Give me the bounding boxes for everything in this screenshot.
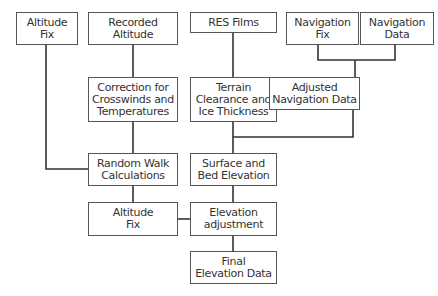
node-random-walk: Random Walk Calculations [88, 153, 178, 186]
node-navigation-fix: Navigation Fix [286, 12, 359, 45]
node-altitude-fix-mid: Altitude Fix [88, 202, 178, 236]
connector-nav-merge [318, 44, 395, 60]
node-surface-bed-elevation: Surface and Bed Elevation [190, 153, 277, 186]
node-terrain-clearance: Terrain Clearance and Ice Thickness [190, 77, 277, 122]
connector-altitude-fix-to-random-walk [46, 44, 88, 169]
node-elevation-adjustment: Elevation adjustment [190, 202, 277, 236]
node-navigation-data: Navigation Data [360, 12, 434, 45]
node-res-films: RES Films [190, 12, 277, 33]
node-final-elevation-data: Final Elevation Data [190, 251, 277, 284]
node-altitude-fix-top: Altitude Fix [16, 12, 78, 45]
flowchart-canvas: Altitude Fix Recorded Altitude RES Films… [0, 0, 438, 296]
node-recorded-altitude: Recorded Altitude [88, 12, 178, 45]
node-correction: Correction for Crosswinds and Temperatur… [88, 77, 178, 122]
node-adjusted-navigation: Adjusted Navigation Data [269, 77, 360, 110]
